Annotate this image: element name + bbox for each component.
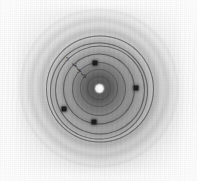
diffraction-spot-top: [93, 61, 98, 66]
diffraction-spot-right: [134, 86, 139, 91]
ring-label-5: 5: [65, 56, 69, 63]
diffraction-spot-left: [62, 107, 67, 112]
diffraction-spot-bottom: [92, 120, 97, 125]
diffraction-plate: 5 4 3 2: [0, 0, 197, 181]
direct-beam-spot: [95, 84, 104, 93]
